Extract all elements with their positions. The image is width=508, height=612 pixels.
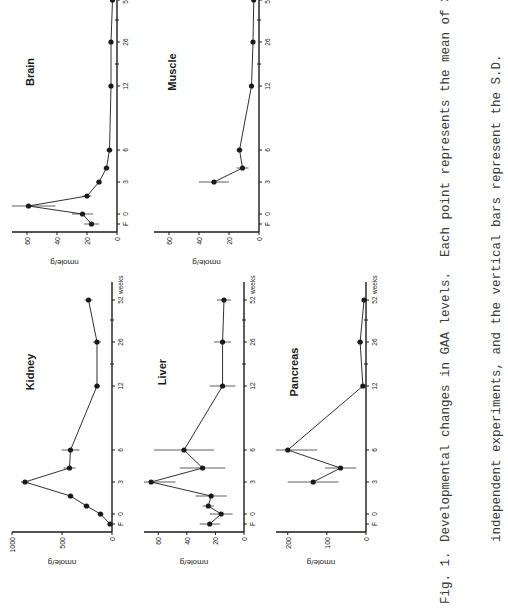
data-point <box>237 147 242 152</box>
data-point <box>110 0 115 3</box>
x-tick-label: 12 <box>117 382 124 390</box>
y-tick-label: 1000 <box>9 537 16 553</box>
series-line <box>25 300 110 524</box>
x-tick-label: F <box>249 522 256 526</box>
y-tick-label: 60 <box>155 537 162 545</box>
x-tick-label: 0 <box>249 512 256 516</box>
caption-line-2: independent experiments, and the vertica… <box>489 4 506 604</box>
y-tick-label: 200 <box>285 537 292 549</box>
data-point <box>220 339 225 344</box>
y-axis-label: nmole/g <box>50 258 78 267</box>
x-tick-label: F <box>117 522 124 526</box>
y-tick-label: 20 <box>84 237 91 245</box>
y-tick-label: 40 <box>184 537 191 545</box>
caption-line-1: Developmental changes in GAA levels. Eac… <box>439 0 453 542</box>
liver-chart: 0204060nmole/gF036122652weeksLiver <box>140 262 274 572</box>
x-tick-label: 12 <box>371 382 378 390</box>
data-point <box>200 465 205 470</box>
x-unit-label: weeks <box>117 275 124 295</box>
data-point <box>338 465 343 470</box>
x-tick-label: 12 <box>122 82 129 90</box>
data-point <box>311 479 316 484</box>
chart-title: Liver <box>156 358 168 385</box>
x-tick-label: 12 <box>264 82 271 90</box>
y-tick-label: 20 <box>226 237 233 245</box>
x-tick-label: F <box>264 222 271 226</box>
data-point <box>108 39 113 44</box>
data-point <box>94 383 99 388</box>
chart-title: Kidney <box>24 353 36 391</box>
kidney-chart: 05001000nmole/gF036122652weeksKidney <box>8 262 142 572</box>
data-point <box>84 193 89 198</box>
x-unit-label: weeks <box>371 275 378 295</box>
data-point <box>107 521 112 526</box>
x-tick-label: 3 <box>122 180 129 184</box>
x-tick-label: 12 <box>249 382 256 390</box>
chart-svg: 0204060nmole/gF036122652weeksLiver <box>140 262 270 572</box>
data-point <box>86 297 91 302</box>
data-point <box>250 39 255 44</box>
chart-title: Pancreas <box>288 348 300 397</box>
x-tick-label: 6 <box>122 148 129 152</box>
pancreas-chart: 0100200nmole/gF036122652weeksPancreas <box>272 262 396 572</box>
chart-title: Brain <box>24 58 36 86</box>
x-tick-label: 0 <box>122 212 129 216</box>
figure-caption: Fig. 1.Developmental changes in GAA leve… <box>404 4 508 604</box>
y-tick-label: 500 <box>59 537 66 549</box>
data-point <box>285 447 290 452</box>
y-tick-label: 100 <box>324 537 331 549</box>
x-tick-label: 0 <box>371 512 378 516</box>
x-tick-label: 3 <box>264 180 271 184</box>
data-point <box>251 0 256 3</box>
y-tick-label: 0 <box>363 537 370 541</box>
x-tick-label: 3 <box>117 480 124 484</box>
y-tick-label: 0 <box>109 537 116 541</box>
data-point <box>206 503 211 508</box>
x-tick-label: 26 <box>264 38 271 46</box>
x-tick-label: 0 <box>264 212 271 216</box>
data-point <box>181 447 186 452</box>
data-point <box>80 211 85 216</box>
data-point <box>360 383 365 388</box>
x-tick-label: 6 <box>264 148 271 152</box>
x-tick-label: 52 <box>249 296 256 304</box>
data-point <box>220 383 225 388</box>
data-point <box>240 165 245 170</box>
x-tick-label: 26 <box>117 338 124 346</box>
data-point <box>249 83 254 88</box>
x-tick-label: F <box>122 222 129 226</box>
data-point <box>68 493 73 498</box>
data-point <box>98 511 103 516</box>
y-axis-label: nmole/g <box>192 258 220 267</box>
x-tick-label: 26 <box>249 338 256 346</box>
chart-svg: 0204060nmole/gF036122652weeksBrain <box>8 0 143 272</box>
chart-svg: 0204060nmole/gF036122652weeksMuscle <box>150 0 285 272</box>
y-tick-label: 0 <box>114 237 121 241</box>
data-point <box>68 447 73 452</box>
data-point <box>108 83 113 88</box>
data-point <box>107 147 112 152</box>
data-point <box>89 221 94 226</box>
x-tick-label: 6 <box>117 448 124 452</box>
data-point <box>358 339 363 344</box>
y-tick-label: 60 <box>166 237 173 245</box>
series-line <box>214 0 254 182</box>
x-unit-label: weeks <box>249 275 256 295</box>
y-tick-label: 0 <box>256 237 263 241</box>
x-tick-label: 52 <box>117 296 124 304</box>
data-point <box>26 203 31 208</box>
data-point <box>209 493 214 498</box>
data-point <box>84 503 89 508</box>
data-point <box>104 165 109 170</box>
data-point <box>211 179 216 184</box>
x-tick-label: 26 <box>122 38 129 46</box>
chart-svg: 0100200nmole/gF036122652weeksPancreas <box>272 262 392 572</box>
y-tick-label: 60 <box>24 237 31 245</box>
data-point <box>67 465 72 470</box>
data-point <box>96 179 101 184</box>
data-point <box>94 339 99 344</box>
y-axis-label: nmole/g <box>307 558 335 567</box>
data-point <box>207 521 212 526</box>
y-tick-label: 40 <box>54 237 61 245</box>
figure-label: Fig. 1. <box>438 542 455 604</box>
